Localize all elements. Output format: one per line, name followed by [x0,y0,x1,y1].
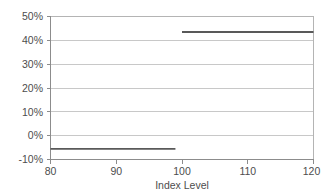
x-tick-marks [51,160,314,164]
y-tick-label-20: 20% [22,82,43,94]
x-tick-label-100: 100 [173,165,191,177]
x-tick-label-120: 120 [303,165,321,177]
y-tick-labels: 50% 40% 30% 20% 10% 0% -10% [18,10,43,165]
y-tick-label-10: 10% [22,106,43,118]
x-tick-labels: 80 90 100 110 120 [45,165,321,177]
y-tick-marks [47,17,51,160]
y-tick-label-0: 0% [28,129,43,141]
chart-canvas: 50% 40% 30% 20% 10% 0% -10% 80 90 100 11… [0,0,334,194]
y-tick-label-neg10: -10% [18,153,43,165]
y-tick-label-40: 40% [22,34,43,46]
y-tick-label-30: 30% [22,58,43,70]
x-tick-label-90: 90 [110,165,122,177]
x-tick-label-80: 80 [45,165,57,177]
x-axis-title: Index Level [155,179,209,191]
x-tick-label-110: 110 [239,165,256,177]
y-tick-label-50: 50% [22,10,43,22]
chart-container: 50% 40% 30% 20% 10% 0% -10% 80 90 100 11… [0,0,334,194]
